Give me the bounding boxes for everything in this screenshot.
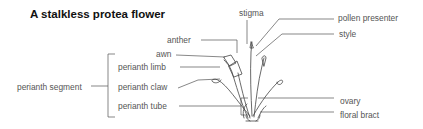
- bracket-perianth-segment: [108, 54, 115, 117]
- flower-style: [251, 42, 252, 116]
- leader-awn: [176, 55, 225, 57]
- leader-pollen-presenter: [256, 19, 334, 46]
- leader-perianth-claw: [178, 79, 220, 88]
- flower-anther: [224, 55, 236, 66]
- protea-flower-drawing: [212, 42, 283, 121]
- diagram-canvas: [0, 0, 423, 129]
- leader-anther: [201, 40, 237, 53]
- leader-style: [256, 34, 334, 56]
- flower-perianth-segment-right: [254, 58, 264, 117]
